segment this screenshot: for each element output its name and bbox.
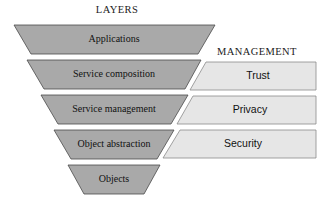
layer-label-objects: Objects — [99, 173, 130, 184]
layer-label-object-abstraction: Object abstraction — [77, 138, 150, 149]
management-label-privacy: Privacy — [233, 103, 268, 115]
layers-heading: LAYERS — [96, 4, 138, 15]
layer-label-applications: Applications — [88, 33, 139, 44]
diagram-root: LAYERS Applications Service composition … — [0, 0, 324, 209]
layer-label-service-composition: Service composition — [73, 68, 155, 79]
management-heading: MANAGEMENT — [217, 46, 297, 57]
layer-label-service-management: Service management — [72, 103, 156, 114]
management-label-security: Security — [224, 137, 263, 149]
layers-management-diagram: LAYERS Applications Service composition … — [0, 0, 324, 209]
management-label-trust: Trust — [246, 69, 270, 81]
